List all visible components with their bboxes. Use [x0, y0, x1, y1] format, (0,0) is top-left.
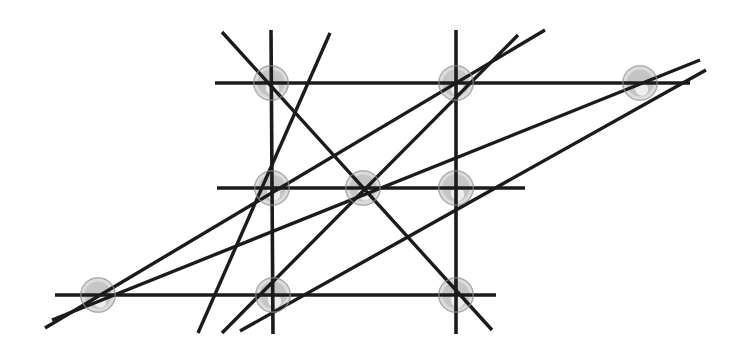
geometry-figure-svg: [0, 0, 742, 360]
geometry-figure-canvas: [0, 0, 742, 360]
grid-line-v-left: [271, 30, 273, 334]
